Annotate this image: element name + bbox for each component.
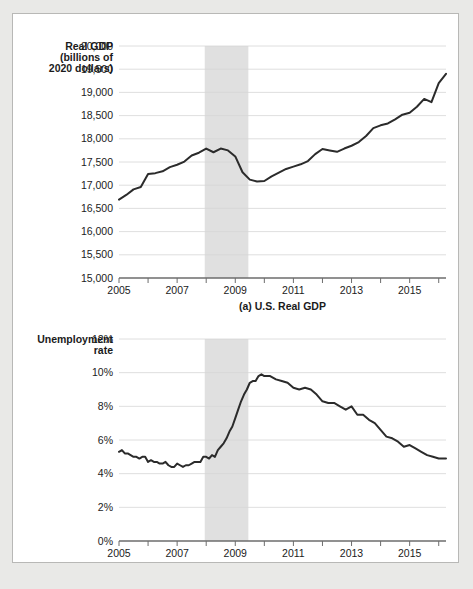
y-axis-title: rate xyxy=(94,344,113,356)
y-axis-tick-label: 16,000 xyxy=(81,225,113,237)
x-axis-tick-label: 2009 xyxy=(224,547,248,559)
x-axis-tick-label: 2005 xyxy=(107,547,131,559)
unemployment-rate-plot: 0%2%4%6%8%10%12%200520072009201120132015… xyxy=(13,309,460,562)
x-axis-tick-label: 2007 xyxy=(165,284,189,296)
y-axis-tick-label: 15,500 xyxy=(81,248,113,260)
real-gdp-plot: 15,00015,50016,00016,50017,00017,50018,0… xyxy=(13,14,460,314)
x-axis-tick-label: 2013 xyxy=(340,284,364,296)
y-axis-tick-label: 10% xyxy=(92,366,113,378)
y-axis-title: 2020 dollars) xyxy=(49,62,113,74)
y-axis-tick-label: 4% xyxy=(98,467,113,479)
y-axis-tick-label: 15,000 xyxy=(81,272,113,284)
figure-panel: 15,00015,50016,00016,50017,00017,50018,0… xyxy=(12,13,459,563)
y-axis-tick-label: 2% xyxy=(98,501,113,513)
y-axis-tick-label: 19,000 xyxy=(81,86,113,98)
data-series-line xyxy=(119,374,446,467)
y-axis-tick-label: 17,500 xyxy=(81,156,113,168)
x-axis-tick-label: 2015 xyxy=(398,284,422,296)
chart-real-gdp: 15,00015,50016,00016,50017,00017,50018,0… xyxy=(13,14,460,314)
y-axis-tick-label: 6% xyxy=(98,434,113,446)
x-axis-tick-label: 2007 xyxy=(165,547,189,559)
y-axis-tick-label: 16,500 xyxy=(81,202,113,214)
x-axis-tick-label: 2015 xyxy=(398,547,422,559)
y-axis-tick-label: 8% xyxy=(98,400,113,412)
y-axis-tick-label: 18,000 xyxy=(81,132,113,144)
chart-unemployment-rate: 0%2%4%6%8%10%12%200520072009201120132015… xyxy=(13,309,460,562)
x-axis-tick-label: 2011 xyxy=(282,284,305,296)
y-axis-tick-label: 18,500 xyxy=(81,109,113,121)
x-axis-tick-label: 2011 xyxy=(282,547,305,559)
x-axis-tick-label: 2013 xyxy=(340,547,364,559)
y-axis-tick-label: 0% xyxy=(98,535,113,547)
x-axis-tick-label: 2009 xyxy=(224,284,248,296)
y-axis-tick-label: 17,000 xyxy=(81,179,113,191)
x-axis-tick-label: 2005 xyxy=(107,284,131,296)
